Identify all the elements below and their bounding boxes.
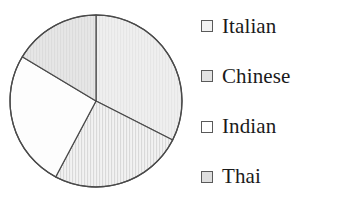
- pie-chart-plot-area: [0, 0, 195, 201]
- legend-item-chinese[interactable]: Chinese: [201, 64, 342, 88]
- legend-item-italian[interactable]: Italian: [201, 14, 342, 38]
- legend-label-chinese: Chinese: [222, 66, 290, 87]
- legend-label-indian: Indian: [222, 116, 276, 137]
- legend-label-thai: Thai: [222, 166, 261, 187]
- legend-swatch-indian: [201, 121, 213, 133]
- legend-swatch-italian: [201, 20, 213, 32]
- pie-chart-svg: [0, 0, 195, 201]
- chart-legend: Italian Chinese Indian Thai: [201, 14, 342, 189]
- legend-item-indian[interactable]: Indian: [201, 115, 342, 139]
- legend-swatch-chinese: [201, 70, 213, 82]
- legend-item-thai[interactable]: Thai: [201, 165, 342, 189]
- legend-swatch-thai: [201, 171, 213, 183]
- legend-label-italian: Italian: [222, 16, 276, 37]
- pie-chart-figure: Italian Chinese Indian Thai: [0, 0, 342, 201]
